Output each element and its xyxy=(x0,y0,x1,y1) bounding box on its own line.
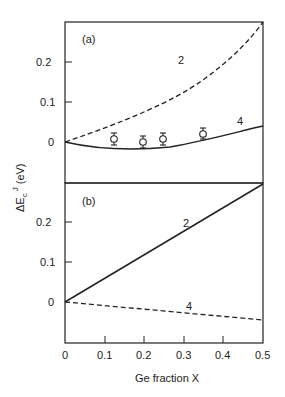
chart: (a) (b) 0.2 0.1 0 0.2 0.1 0 0 0.1 0.2 0.… xyxy=(0,0,285,397)
curve-b-4-label: 4 xyxy=(186,300,192,312)
ytick-b-0: 0 xyxy=(48,296,54,308)
ytick-b-0.1: 0.1 xyxy=(40,256,55,268)
data-point xyxy=(111,133,118,145)
data-point xyxy=(200,128,207,139)
curve-a-2-label: 2 xyxy=(178,54,184,66)
x-axis-label: Ge fraction X xyxy=(135,372,200,384)
curve-b-2-label: 2 xyxy=(183,217,189,229)
curve-a-4-label: 4 xyxy=(237,115,243,127)
y-axis-label: ΔEcJ (eV) xyxy=(11,163,29,212)
curve-b-4-dashed xyxy=(65,302,263,320)
data-point xyxy=(140,136,147,148)
xtick-0.3: 0.3 xyxy=(176,349,191,361)
xtick-0.1: 0.1 xyxy=(97,349,112,361)
ytick-a-0.1: 0.1 xyxy=(40,96,55,108)
xtick-0.5: 0.5 xyxy=(255,349,270,361)
panel-a-label: (a) xyxy=(82,33,95,45)
ytick-a-0.2: 0.2 xyxy=(36,56,51,68)
data-point xyxy=(160,133,167,145)
ytick-a-0: 0 xyxy=(48,136,54,148)
svg-text:ΔEcJ (eV): ΔEcJ (eV) xyxy=(11,163,29,212)
panel-b-label: (b) xyxy=(82,195,95,207)
xtick-0.4: 0.4 xyxy=(215,349,230,361)
xtick-0.2: 0.2 xyxy=(136,349,151,361)
ytick-b-0.2: 0.2 xyxy=(36,216,51,228)
y-ticks-a xyxy=(65,62,72,102)
y-ticks-b xyxy=(65,222,72,262)
panel-b-frame xyxy=(65,183,263,343)
data-points xyxy=(111,128,207,148)
x-ticks xyxy=(105,336,223,343)
xtick-0: 0 xyxy=(62,349,68,361)
